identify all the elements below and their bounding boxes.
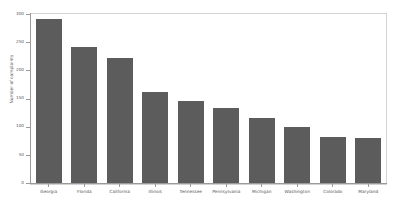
x-axis-tick-label: Washington xyxy=(285,189,310,194)
x-axis-tick xyxy=(226,184,227,187)
x-axis-tick-label: Pennsylvania xyxy=(212,189,240,194)
bar xyxy=(36,19,62,183)
x-axis-tick xyxy=(119,184,120,187)
y-axis-tick xyxy=(26,155,30,156)
bar-slot xyxy=(102,14,138,183)
bar xyxy=(249,118,275,183)
bar-slot xyxy=(280,14,316,183)
x-axis-tick-label: Colorado xyxy=(323,189,342,194)
bar-slot xyxy=(209,14,245,183)
bar-slot xyxy=(244,14,280,183)
y-axis-tick-label: 250 xyxy=(16,40,24,44)
y-axis-tick xyxy=(26,99,30,100)
x-axis-tick-label: Michigan xyxy=(252,189,271,194)
bar-chart-figure: 050100150200250300 Number of complaints … xyxy=(0,0,395,208)
x-axis-tick-label: Tennessee xyxy=(180,189,202,194)
y-axis-tick-label: 150 xyxy=(16,96,24,100)
x-axis-tick-labels: GeorgiaFloridaCaliforniaIllinoisTennesse… xyxy=(31,184,386,194)
bar xyxy=(320,137,346,183)
x-axis-tick-group: Washington xyxy=(280,184,316,194)
y-axis-title: Number of complaints xyxy=(10,49,14,109)
bar xyxy=(213,108,239,183)
x-axis-tick-group: California xyxy=(102,184,138,194)
bar-slot xyxy=(67,14,103,183)
x-axis-tick-group: Tennessee xyxy=(173,184,209,194)
x-axis-tick xyxy=(48,184,49,187)
x-axis-tick-label: Georgia xyxy=(40,189,57,194)
bar-slot xyxy=(351,14,387,183)
x-axis-tick xyxy=(297,184,298,187)
bar-slot xyxy=(31,14,67,183)
x-axis-tick-label: Maryland xyxy=(358,189,378,194)
bar xyxy=(71,47,97,183)
bar xyxy=(142,92,168,183)
y-axis-tick-label: 0 xyxy=(21,181,24,185)
y-axis-tick-label: 200 xyxy=(16,68,24,72)
x-axis-tick-label: Illinois xyxy=(148,189,162,194)
y-axis-tick xyxy=(26,70,30,71)
x-axis-tick xyxy=(155,184,156,187)
bar xyxy=(178,101,204,183)
bar xyxy=(284,127,310,183)
y-axis-tick-label: 300 xyxy=(16,12,24,16)
x-axis-tick xyxy=(368,184,369,187)
x-axis-tick xyxy=(84,184,85,187)
y-axis-tick xyxy=(26,127,30,128)
bar xyxy=(107,58,133,183)
x-axis-tick xyxy=(332,184,333,187)
x-axis-tick-group: Georgia xyxy=(31,184,67,194)
x-axis-tick-group: Maryland xyxy=(351,184,387,194)
bar-slot xyxy=(138,14,174,183)
bar xyxy=(355,138,381,183)
x-axis-tick-label: California xyxy=(110,189,130,194)
y-axis-tick xyxy=(26,14,30,15)
x-axis-tick-group: Florida xyxy=(67,184,103,194)
x-axis-tick-group: Michigan xyxy=(244,184,280,194)
x-axis-tick-group: Colorado xyxy=(315,184,351,194)
bar-series xyxy=(31,14,386,183)
bar-slot xyxy=(315,14,351,183)
x-axis-tick xyxy=(261,184,262,187)
x-axis-tick-label: Florida xyxy=(77,189,92,194)
y-axis-tick xyxy=(26,42,30,43)
x-axis-tick xyxy=(190,184,191,187)
x-axis-tick-group: Illinois xyxy=(138,184,174,194)
x-axis-tick-group: Pennsylvania xyxy=(209,184,245,194)
y-axis-tick xyxy=(26,183,30,184)
bar-slot xyxy=(173,14,209,183)
y-axis-tick-label: 50 xyxy=(19,153,24,157)
y-axis-tick-label: 100 xyxy=(16,124,24,128)
